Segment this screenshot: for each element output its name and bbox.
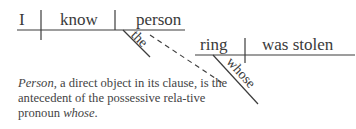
word-subject-ring: ring [200,36,227,53]
word-subject-i: I [19,11,25,28]
word-verb-was-stolen: was stolen [262,36,333,53]
caption-end: . [95,106,98,120]
word-verb-know: know [60,11,98,28]
word-object-person: person [136,11,181,28]
caption-italic-term: whose [63,106,94,120]
diagram-caption: Person, a direct object in its clause, i… [18,76,228,122]
caption-lead-word: Person [18,76,54,90]
